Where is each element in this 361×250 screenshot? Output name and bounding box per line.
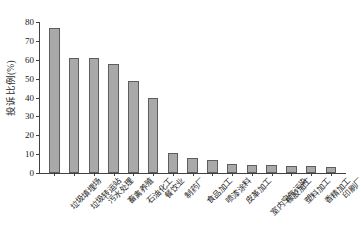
y-tick-mark <box>36 135 39 136</box>
y-tick-mark <box>36 154 39 155</box>
bar <box>168 153 179 173</box>
y-tick-label: 40 <box>25 93 34 102</box>
bar <box>187 158 198 173</box>
bar <box>306 166 317 173</box>
bar <box>89 58 100 173</box>
x-tick-label-text: 制药厂 <box>183 177 206 200</box>
y-tick-mark <box>36 60 39 61</box>
bar <box>207 160 218 173</box>
bar <box>148 98 159 174</box>
y-tick-mark <box>36 79 39 80</box>
bar <box>69 58 80 173</box>
x-axis-labels: 垃圾填埋场垃圾转运站污水处理畜禽养殖石油化工餐饮业制药厂食品加工喷漆涂料皮革加工… <box>39 174 346 250</box>
bar <box>286 166 297 173</box>
bar <box>227 164 238 173</box>
y-tick-label: 30 <box>25 112 34 121</box>
y-axis-line <box>39 22 40 173</box>
bar <box>266 165 277 173</box>
y-tick-mark <box>36 98 39 99</box>
y-tick-label: 20 <box>25 131 34 140</box>
bar <box>108 64 119 173</box>
bar <box>49 28 60 173</box>
bar-chart-figure: 投诉比例(%) 01020304050607080 垃圾填埋场垃圾转运站污水处理… <box>0 0 361 250</box>
y-axis-title: 投诉比例(%) <box>2 0 18 175</box>
y-tick-label: 70 <box>25 36 34 45</box>
y-tick-mark <box>36 22 39 23</box>
y-tick-label: 0 <box>30 169 35 178</box>
y-tick-mark <box>36 116 39 117</box>
bar <box>128 81 139 173</box>
y-tick-mark <box>36 41 39 42</box>
y-tick-label: 80 <box>25 18 34 27</box>
y-tick-label: 10 <box>25 150 34 159</box>
y-tick-label: 50 <box>25 74 34 83</box>
bar <box>326 167 337 173</box>
x-tick-label: 制药厂 <box>183 177 206 200</box>
bar <box>247 165 258 173</box>
plot-area: 01020304050607080 <box>39 22 346 173</box>
y-axis-title-text: 投诉比例(%) <box>3 60 17 116</box>
y-tick-label: 60 <box>25 55 34 64</box>
